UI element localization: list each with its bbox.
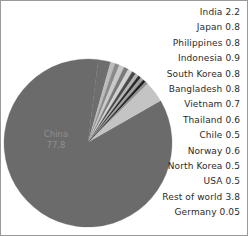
legend-item[interactable]: Vietnam 0.7 bbox=[60, 97, 240, 112]
legend-item[interactable]: Rest of world 3.8 bbox=[60, 190, 240, 205]
legend-item-label: Philippines 0.8 bbox=[173, 38, 240, 48]
legend-item-label: USA 0.5 bbox=[204, 176, 241, 186]
pie-chart-figure: China77.8 India 2.2Japan 0.8Philippines … bbox=[0, 0, 248, 236]
legend-item-label: Bangladesh 0.8 bbox=[169, 84, 240, 94]
legend-item[interactable]: Philippines 0.8 bbox=[60, 36, 240, 51]
legend-item-label: South Korea 0.8 bbox=[167, 69, 240, 79]
legend-item[interactable]: North Korea 0.5 bbox=[60, 159, 240, 174]
legend-item-label: Norway 0.6 bbox=[188, 146, 240, 156]
legend-item[interactable]: Germany 0.05 bbox=[60, 205, 240, 220]
legend-item[interactable]: Bangladesh 0.8 bbox=[60, 82, 240, 97]
legend-item[interactable]: India 2.2 bbox=[60, 5, 240, 20]
legend-item[interactable]: USA 0.5 bbox=[60, 174, 240, 189]
legend-item-label: Indonesia 0.9 bbox=[178, 53, 240, 63]
legend-item-label: Vietnam 0.7 bbox=[184, 99, 240, 109]
legend-item[interactable]: South Korea 0.8 bbox=[60, 67, 240, 82]
legend-item-label: Thailand 0.6 bbox=[183, 115, 240, 125]
legend-item[interactable]: Norway 0.6 bbox=[60, 144, 240, 159]
legend-item[interactable]: Thailand 0.6 bbox=[60, 113, 240, 128]
legend-item-label: Japan 0.8 bbox=[197, 22, 240, 32]
legend-item-label: Chile 0.5 bbox=[199, 130, 240, 140]
legend-item-label: India 2.2 bbox=[200, 7, 240, 17]
legend-item-label: Rest of world 3.8 bbox=[162, 192, 240, 202]
legend-item[interactable]: Japan 0.8 bbox=[60, 20, 240, 35]
legend-item[interactable]: Indonesia 0.9 bbox=[60, 51, 240, 66]
legend-item-label: North Korea 0.5 bbox=[168, 161, 240, 171]
chart-legend: India 2.2Japan 0.8Philippines 0.8Indones… bbox=[60, 5, 240, 221]
legend-item[interactable]: Chile 0.5 bbox=[60, 128, 240, 143]
legend-item-label: Germany 0.05 bbox=[175, 207, 240, 217]
